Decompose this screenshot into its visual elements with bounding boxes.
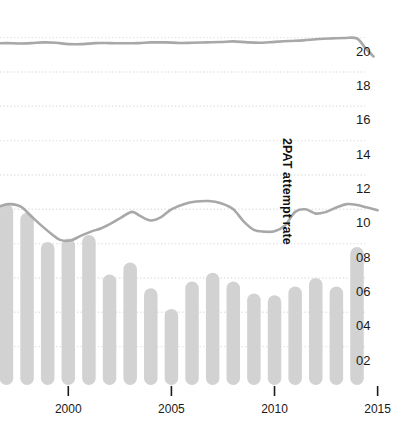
bar (144, 288, 158, 385)
bar (82, 235, 96, 385)
y-axis-tick-label: 20 (356, 45, 370, 58)
y-axis-tick-label: 10 (356, 216, 370, 229)
x-axis-tick-label: 2005 (141, 403, 201, 415)
line-series (0, 38, 378, 241)
bar (0, 204, 13, 385)
line-lower-line (0, 201, 378, 241)
x-axis-ticks (68, 386, 377, 396)
bar (62, 238, 76, 385)
bar (247, 293, 260, 385)
y-axis-tick-label: 18 (356, 79, 370, 92)
line-upper-line (0, 38, 374, 57)
bar (123, 263, 137, 385)
y-axis-tick-label: 14 (356, 148, 370, 161)
x-axis-tick-label: 2010 (245, 403, 305, 415)
bar (103, 275, 117, 385)
y-axis-title: 2PAT attempt rate (280, 138, 294, 258)
y-axis-tick-label: 16 (356, 113, 370, 126)
y-axis-tick-label: 12 (356, 182, 370, 195)
bar (20, 213, 34, 385)
bar (268, 295, 282, 385)
bar-series (0, 204, 364, 385)
chart-plot-area (0, 0, 413, 444)
bar (330, 287, 344, 385)
chart-container: 02040608101214161820 2000200520102015 2P… (0, 0, 413, 444)
y-axis-tick-label: 04 (356, 319, 370, 332)
y-axis-tick-label: 06 (356, 285, 370, 298)
bar (185, 281, 199, 385)
x-axis-tick-label: 2015 (348, 403, 408, 415)
bar (288, 287, 302, 385)
bar (41, 242, 55, 385)
x-axis-tick-label: 2000 (38, 403, 98, 415)
y-axis-tick-label: 02 (356, 354, 370, 367)
bar (206, 273, 220, 385)
bar (227, 281, 241, 385)
y-axis-tick-label: 08 (356, 251, 370, 264)
bar (309, 278, 323, 385)
bar (165, 309, 179, 385)
